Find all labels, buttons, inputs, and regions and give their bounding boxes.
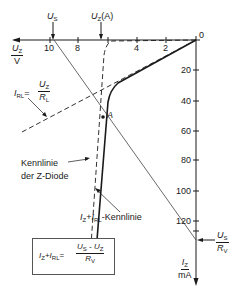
zdiode-pointer-arrow-icon (85, 157, 90, 161)
us-rv-label: US RV (216, 231, 229, 254)
load-line (54, 40, 196, 240)
zdiode-label-line1: Kennlinie (21, 159, 58, 168)
sum-curve-label: IZ+IRL-Kennlinie (80, 213, 142, 223)
us-rv-arrow-icon (197, 238, 203, 242)
y-tick-120: 120 (176, 217, 191, 226)
formula-fraction: US - UZ RV (76, 243, 104, 264)
y-tick-20: 20 (181, 66, 191, 75)
x-tick-2: 2 (163, 44, 168, 53)
y-tick-100: 100 (176, 187, 191, 196)
irl-annotation-fraction: UZ RL (38, 80, 50, 103)
origin-label: 0 (199, 31, 204, 40)
us-arrow-icon (51, 34, 55, 40)
x-axis-label: UZ V (11, 44, 23, 66)
point-a-label: A (107, 111, 113, 120)
y-tick-40: 40 (181, 97, 191, 106)
point-a (101, 115, 105, 119)
x-tick-8: 8 (75, 44, 80, 53)
x-tick-10: 10 (44, 44, 54, 53)
zdiode-label-line2: der Z-Diode (21, 172, 69, 181)
y-axis-label: IZ mA (178, 258, 192, 280)
x-tick-4: 4 (134, 44, 139, 53)
x-axis-arrow-icon (12, 38, 20, 43)
uz-a-label: UZ(A) (91, 12, 113, 22)
y-axis-arrow-icon (194, 278, 199, 286)
y-tick-60: 60 (181, 127, 191, 136)
us-label: US (47, 12, 58, 22)
y-tick-80: 80 (181, 156, 191, 165)
irl-annotation-lhs: IRL= (14, 89, 29, 99)
formula-lhs: IZ+IRL= (39, 252, 64, 261)
uz-arrow-icon (99, 34, 103, 40)
